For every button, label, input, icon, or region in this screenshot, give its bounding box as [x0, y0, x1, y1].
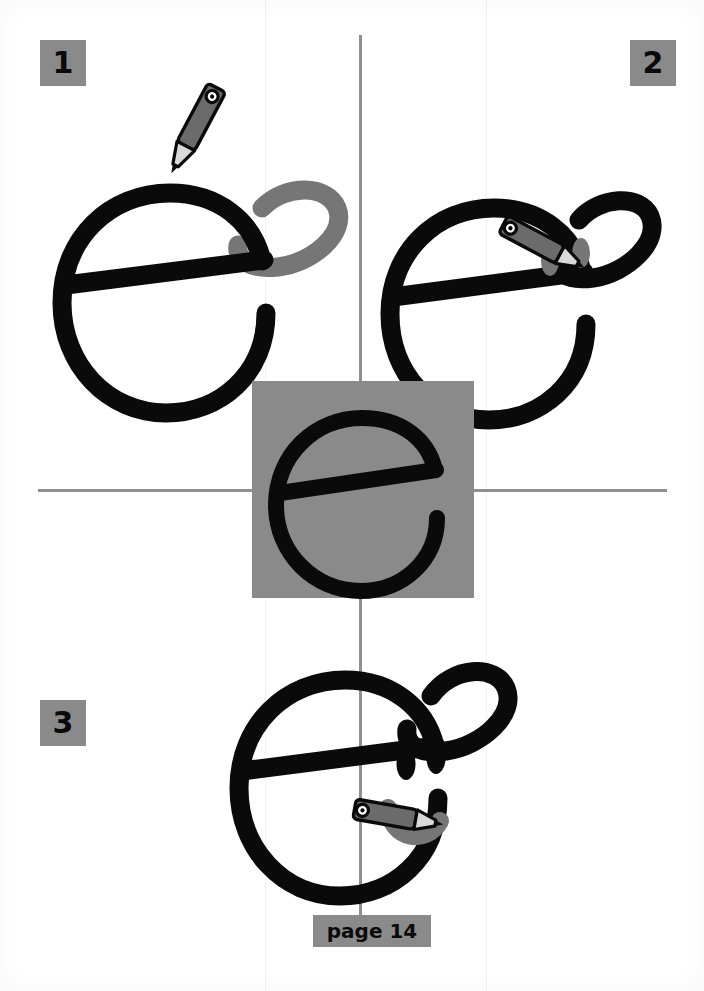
- eye-icon: [427, 742, 446, 774]
- letter-e-icon: [388, 108, 678, 398]
- divider-horizontal-right: [473, 489, 667, 492]
- letter-e-icon: [228, 618, 528, 913]
- eye-icon: [397, 748, 416, 780]
- page-number-tag: page 14: [313, 915, 431, 947]
- tutorial-page: 1 2: [0, 0, 704, 991]
- letter-e-icon: [252, 381, 474, 598]
- letter-e-body: [239, 680, 438, 896]
- letter-e-body: [276, 418, 437, 591]
- step-3-illustration: [228, 618, 528, 913]
- pencil-icon: [162, 83, 225, 178]
- letter-e-icon: [50, 75, 360, 395]
- divider-horizontal-left: [38, 489, 254, 492]
- step-badge-3: 3: [40, 700, 86, 746]
- letter-e-body: [62, 193, 266, 413]
- reference-square: [252, 381, 474, 598]
- step-2-illustration: [388, 108, 678, 398]
- step-badge-2: 2: [630, 40, 676, 86]
- step-1-illustration: [50, 75, 360, 395]
